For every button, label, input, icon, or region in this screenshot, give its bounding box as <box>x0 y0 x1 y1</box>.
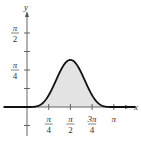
svg-text:3π: 3π <box>87 114 98 124</box>
svg-text:4: 4 <box>46 125 51 135</box>
svg-text:π: π <box>13 23 18 33</box>
svg-text:2: 2 <box>68 125 73 135</box>
svg-text:π: π <box>13 60 18 70</box>
svg-text:4: 4 <box>13 71 18 81</box>
svg-text:π: π <box>68 114 73 124</box>
y-axis-label: y <box>23 2 28 12</box>
shaded-area <box>27 60 114 107</box>
svg-text:π: π <box>46 114 51 124</box>
x-axis-label: x <box>133 102 138 112</box>
svg-text:4: 4 <box>90 125 95 135</box>
svg-text:π: π <box>112 114 117 124</box>
svg-text:2: 2 <box>13 34 18 44</box>
area-chart: π4π23π4ππ4π2 x y <box>0 0 141 149</box>
